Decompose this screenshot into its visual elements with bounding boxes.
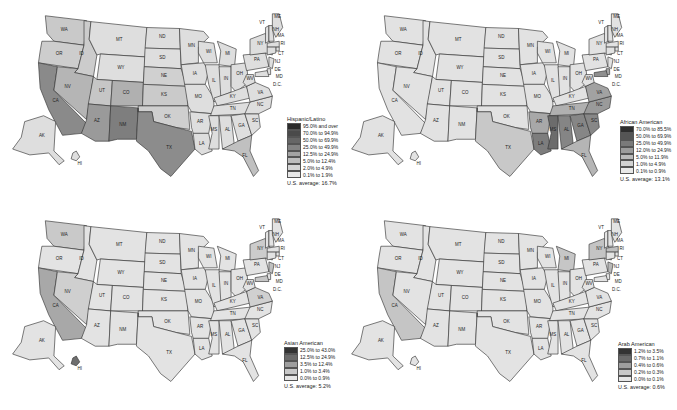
legend-swatch xyxy=(620,167,634,174)
state-label-tn: TN xyxy=(230,106,236,111)
legend-row: 12.0% to 24.9% xyxy=(620,147,671,154)
state-label-il: IL xyxy=(551,78,555,83)
state-label-ia: IA xyxy=(532,70,537,75)
legend-swatch xyxy=(287,164,301,171)
state-label-wv: WV xyxy=(246,281,254,286)
state-label-ut: UT xyxy=(438,88,444,93)
state-label-dc.: D.C. xyxy=(273,287,282,292)
state-label-mo: MO xyxy=(534,299,541,304)
state-label-nj: NJ xyxy=(275,59,281,64)
legend-range-label: 25.0% to 49.9% xyxy=(303,144,338,150)
legend-swatch xyxy=(620,147,634,154)
state-label-sc: SC xyxy=(252,117,259,122)
state-label-mo: MO xyxy=(534,94,541,99)
state-label-md: MD xyxy=(615,74,622,79)
state-label-in: IN xyxy=(224,281,229,286)
state-label-de: DE xyxy=(274,271,280,276)
legend-rows: 70.0% to 85.5%50.0% to 69.9%25.0% to 49.… xyxy=(620,126,671,174)
state-vt xyxy=(604,231,607,249)
state-ct xyxy=(267,252,276,260)
state-label-mt: MT xyxy=(116,242,123,247)
state-label-de: DE xyxy=(613,271,619,276)
state-label-pa: PA xyxy=(593,57,599,62)
state-label-wa: WA xyxy=(400,232,408,237)
legend-range-label: 0.1% to 0.9% xyxy=(636,168,666,174)
state-label-nh: NH xyxy=(273,232,280,237)
state-label-ri: RI xyxy=(280,41,284,46)
state-label-id: ID xyxy=(79,51,84,56)
state-hi xyxy=(71,356,80,366)
state-label-sd: SD xyxy=(498,260,505,265)
map-panel-arab-american: WAORCAIDNVMTWYUTAZCONMNDSDNEKSOKTXMNIAMO… xyxy=(339,205,677,410)
legend-average: U.S. average: 0.6% xyxy=(618,384,665,390)
legend-range-label: 0.7% to 1.1% xyxy=(634,355,664,361)
state-label-mo: MO xyxy=(195,299,202,304)
legend-row: 0.1% to 0.9% xyxy=(620,167,671,174)
state-label-la: LA xyxy=(538,141,544,146)
state-label-me: ME xyxy=(274,218,281,223)
legend-range-label: 70.0% to 94.9% xyxy=(303,130,338,136)
legend-swatch xyxy=(620,140,634,147)
state-label-al: AL xyxy=(564,332,570,337)
states-group: WAORCAIDNVMTWYUTAZCONMNDSDNEKSOKTXMNIAMO… xyxy=(352,13,624,176)
state-label-al: AL xyxy=(225,332,231,337)
state-label-az: AZ xyxy=(433,322,439,327)
state-label-id: ID xyxy=(418,256,423,261)
state-label-ak: AK xyxy=(378,338,385,343)
legend-african-american: African American 70.0% to 85.5%50.0% to … xyxy=(620,119,671,182)
state-label-co: CO xyxy=(462,295,469,300)
state-label-vt: VT xyxy=(598,224,604,229)
legend-swatch xyxy=(618,348,632,355)
state-label-tx: TX xyxy=(505,145,511,150)
legend-row: 0.0% to 0.9% xyxy=(284,375,335,382)
state-label-il: IL xyxy=(551,283,555,288)
legend-range-label: 12.0% to 24.9% xyxy=(636,147,671,153)
state-label-wv: WV xyxy=(585,76,593,81)
state-label-md: MD xyxy=(276,279,283,284)
state-label-il: IL xyxy=(212,78,216,83)
state-label-ca: CA xyxy=(392,303,399,308)
state-label-ms: MS xyxy=(211,127,218,132)
state-label-ak: AK xyxy=(39,338,46,343)
legend-swatch xyxy=(284,354,298,361)
state-label-vt: VT xyxy=(259,224,265,229)
state-label-tn: TN xyxy=(569,106,575,111)
legend-title: Arab American xyxy=(618,341,665,347)
legend-rows: 95.0% and over70.0% to 94.9%50.0% to 69.… xyxy=(287,123,338,178)
state-label-nd: ND xyxy=(159,239,166,244)
state-label-in: IN xyxy=(563,76,568,81)
legend-row: 25.0% to 49.9% xyxy=(620,140,671,147)
legend-range-label: 70.0% to 85.5% xyxy=(636,126,671,132)
state-label-pa: PA xyxy=(593,262,599,267)
legend-range-label: 0.2% to 0.3% xyxy=(634,369,664,375)
map-panel-african-american: WAORCAIDNVMTWYUTAZCONMNDSDNEKSOKTXMNIAMO… xyxy=(339,0,677,205)
state-label-dc.: D.C. xyxy=(612,287,621,292)
legend-swatch xyxy=(620,154,634,161)
state-label-nd: ND xyxy=(498,239,505,244)
state-label-dc.: D.C. xyxy=(273,82,282,87)
legend-row: 5.0% to 12.4% xyxy=(287,157,338,164)
legend-row: 5.0% to 11.9% xyxy=(620,154,671,161)
state-label-ms: MS xyxy=(550,332,557,337)
legend-row: 0.7% to 1.1% xyxy=(618,355,665,362)
state-label-mn: MN xyxy=(527,43,534,48)
state-label-nc: NC xyxy=(257,307,264,312)
legend-swatch xyxy=(618,355,632,362)
legend-range-label: 25.0% to 43.0% xyxy=(300,347,335,353)
legend-range-label: 1.0% to 3.4% xyxy=(300,368,330,374)
legend-range-label: 0.1% to 1.9% xyxy=(303,172,333,178)
state-label-mi: MI xyxy=(225,51,230,56)
state-label-ia: IA xyxy=(532,275,537,280)
state-label-ny: NY xyxy=(257,41,264,46)
state-hi xyxy=(410,356,419,366)
legend-range-label: 3.5% to 12.4% xyxy=(300,361,333,367)
legend-range-label: 5.0% to 12.4% xyxy=(303,158,336,164)
legend-row: 95.0% and over xyxy=(287,123,338,130)
state-label-ct: CT xyxy=(617,51,623,56)
state-ct xyxy=(606,252,615,260)
state-label-il: IL xyxy=(212,283,216,288)
state-label-nh: NH xyxy=(612,232,619,237)
legend-row: 50.0% to 69.9% xyxy=(287,137,338,144)
state-label-az: AZ xyxy=(433,117,439,122)
legend-hispanic: Hispanic/Latino 95.0% and over70.0% to 9… xyxy=(287,116,338,186)
